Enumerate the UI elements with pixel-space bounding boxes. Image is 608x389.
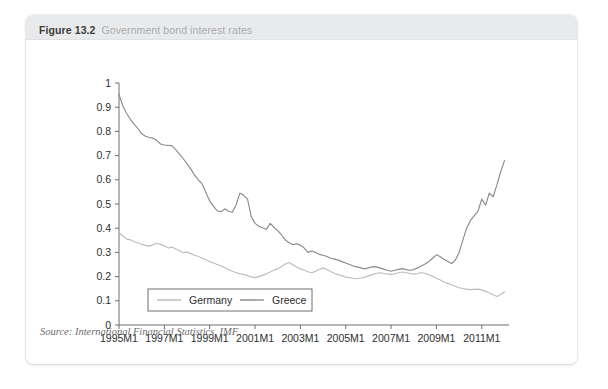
chart-legend: GermanyGreece	[148, 289, 312, 311]
y-tick-label: 0.3	[96, 246, 111, 258]
legend-label-germany: Germany	[189, 294, 233, 306]
y-tick-label: 0.5	[96, 198, 111, 210]
figure-title: Government bond interest rates	[102, 24, 253, 36]
figure-number: Figure 13.2	[39, 24, 96, 36]
series-line-greece	[119, 94, 504, 271]
x-tick-label: 2003M1	[281, 332, 319, 344]
x-tick-label: 2005M1	[327, 332, 365, 344]
y-tick-label: 0.6	[96, 173, 111, 185]
x-tick-label: 2001M1	[236, 332, 274, 344]
line-chart: 00.10.20.30.40.50.60.70.80.91 1995M11997…	[26, 39, 577, 364]
x-tick-label: 2011M1	[463, 332, 500, 344]
y-tick-label: 0.9	[96, 101, 111, 113]
y-axis-tick-labels: 00.10.20.30.40.50.60.70.80.91	[96, 77, 111, 331]
series-line-germany	[119, 233, 504, 297]
x-tick-label: 2007M1	[372, 332, 410, 344]
y-tick-label: 0.1	[96, 294, 111, 306]
source-caption-text: Source: International Financial Statisti…	[40, 326, 238, 337]
figure-card: Figure 13.2Government bond interest rate…	[26, 15, 577, 364]
legend-label-greece: Greece	[272, 294, 307, 306]
chart-plot-area: 00.10.20.30.40.50.60.70.80.91 1995M11997…	[26, 39, 577, 364]
figure-header-text: Figure 13.2Government bond interest rate…	[39, 20, 252, 38]
y-tick-label: 0.7	[96, 149, 111, 161]
y-tick-label: 0.4	[96, 222, 111, 234]
y-tick-label: 1	[105, 77, 111, 89]
y-tick-label: 0.2	[96, 270, 111, 282]
y-tick-label: 0.8	[96, 125, 111, 137]
x-tick-label: 2009M1	[417, 332, 455, 344]
source-caption: Source: International Financial Statisti…	[40, 326, 238, 337]
figure-header-band: Figure 13.2Government bond interest rate…	[26, 15, 577, 40]
chart-series-group	[119, 94, 504, 296]
